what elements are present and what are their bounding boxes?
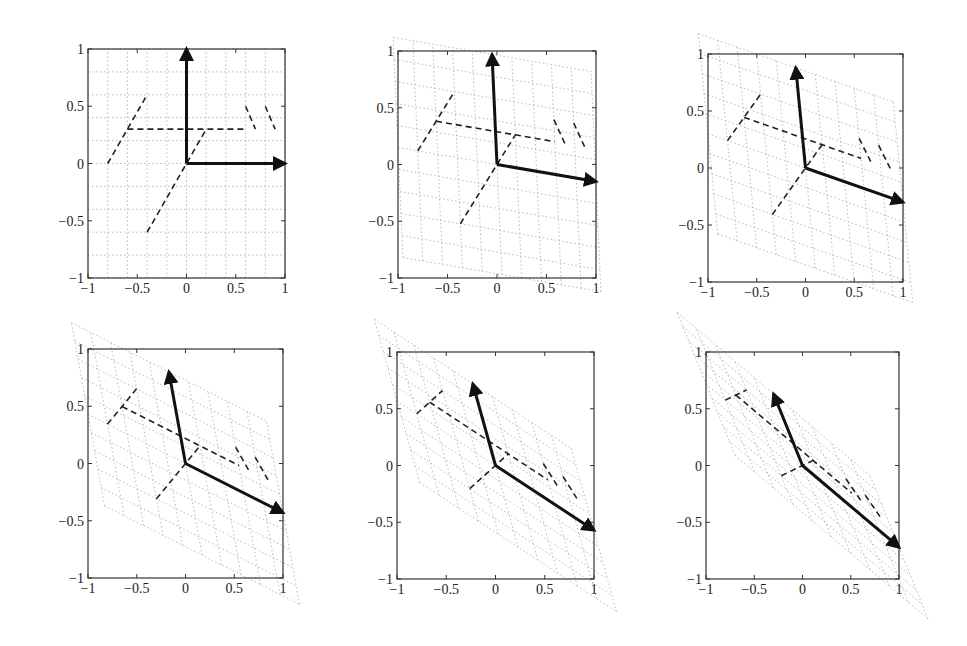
- y-tick-label: −0.5: [59, 514, 84, 529]
- x-tick-label: 1: [280, 581, 287, 596]
- y-tick-label: −1: [689, 275, 704, 290]
- x-tick-label: −0.5: [125, 281, 150, 296]
- subplot-3: −1−1−0.5−0.5000.50.511: [679, 33, 913, 302]
- x-tick-label: −0.5: [124, 581, 149, 596]
- figure-canvas: −1−1−0.5−0.5000.50.511−1−1−0.5−0.5000.50…: [0, 0, 967, 646]
- x-tick-label: −0.5: [742, 582, 767, 597]
- subplot-1: −1−1−0.5−0.5000.50.511: [59, 42, 289, 296]
- dashed-shape: [417, 391, 578, 500]
- y-tick-label: 1: [387, 44, 394, 59]
- x-tick-label: 1: [282, 281, 289, 296]
- subplot-2: −1−1−0.5−0.5000.50.511: [369, 37, 601, 296]
- y-tick-label: −1: [69, 271, 84, 286]
- y-tick-label: 0: [386, 459, 393, 474]
- y-tick-label: −1: [687, 572, 702, 587]
- x-tick-label: 0: [182, 581, 189, 596]
- y-tick-label: 1: [77, 342, 84, 357]
- basis-arrow-y: [796, 68, 806, 168]
- y-tick-label: −0.5: [369, 214, 394, 229]
- x-tick-label: −0.5: [744, 285, 769, 300]
- y-tick-label: 0: [77, 457, 84, 472]
- basis-arrow-y: [169, 372, 186, 464]
- y-tick-label: 1: [77, 42, 84, 57]
- x-tick-label: 0: [492, 582, 499, 597]
- y-tick-label: 0.5: [377, 101, 395, 116]
- y-tick-label: 1: [386, 345, 393, 360]
- subplot-4: −1−1−0.5−0.5000.50.511: [59, 323, 300, 605]
- dashed-shape: [108, 389, 269, 499]
- x-tick-label: 0.5: [226, 581, 244, 596]
- basis-arrow-y: [492, 54, 497, 164]
- y-tick-label: 0: [695, 459, 702, 474]
- x-tick-label: −0.5: [434, 582, 459, 597]
- y-tick-label: 0: [697, 161, 704, 176]
- y-tick-label: 0.5: [67, 399, 85, 414]
- x-tick-label: 0: [802, 285, 809, 300]
- x-tick-label: 0.5: [227, 281, 245, 296]
- y-tick-label: 1: [697, 47, 704, 62]
- y-tick-label: 0.5: [687, 104, 705, 119]
- dashed-shape: [728, 94, 891, 214]
- y-tick-label: 0.5: [67, 99, 85, 114]
- x-tick-label: 1: [900, 285, 907, 300]
- y-tick-label: −0.5: [59, 214, 84, 229]
- x-tick-label: 1: [593, 281, 600, 296]
- subplot-5: −1−1−0.5−0.5000.50.511: [368, 319, 617, 612]
- basis-arrow-x: [186, 464, 284, 513]
- x-tick-label: 0: [799, 582, 806, 597]
- y-tick-label: −1: [69, 571, 84, 586]
- x-tick-label: 0: [183, 281, 190, 296]
- y-tick-label: −0.5: [368, 515, 393, 530]
- y-tick-label: 0.5: [376, 402, 394, 417]
- y-tick-label: −0.5: [679, 218, 704, 233]
- subplot-6: −1−1−0.5−0.5000.50.511: [677, 312, 928, 618]
- x-tick-label: 0.5: [536, 582, 554, 597]
- basis-arrow-x: [497, 165, 596, 182]
- y-tick-label: 0: [387, 158, 394, 173]
- x-tick-label: 0.5: [842, 582, 860, 597]
- x-tick-label: 0.5: [538, 281, 556, 296]
- x-tick-label: 1: [591, 582, 598, 597]
- y-tick-label: 0: [77, 157, 84, 172]
- x-tick-label: 0: [494, 281, 501, 296]
- x-tick-label: 0.5: [846, 285, 864, 300]
- x-tick-label: 1: [896, 582, 903, 597]
- y-tick-label: 1: [695, 345, 702, 360]
- x-tick-label: −0.5: [435, 281, 460, 296]
- y-tick-label: −1: [379, 271, 394, 286]
- dashed-shape: [418, 92, 585, 224]
- basis-arrow-x: [806, 168, 904, 202]
- basis-arrow-x: [496, 466, 595, 531]
- y-tick-label: 0.5: [685, 402, 703, 417]
- y-tick-label: −0.5: [677, 515, 702, 530]
- y-tick-label: −1: [378, 572, 393, 587]
